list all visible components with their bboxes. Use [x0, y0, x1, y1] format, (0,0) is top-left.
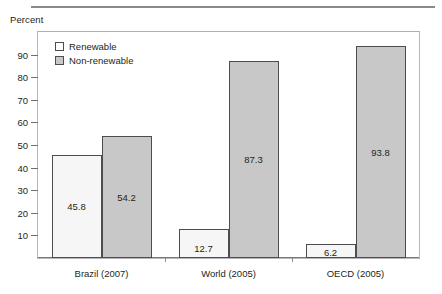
y-axis-tick-label: 80	[17, 72, 28, 83]
y-axis-tick-label: 20	[17, 207, 28, 218]
bar-value-label: 6.2	[307, 247, 355, 258]
bar-nonrenewable: 93.8	[356, 46, 406, 258]
legend-label-nonrenewable: Non-renewable	[69, 55, 133, 66]
bar-value-label: 54.2	[103, 192, 151, 203]
x-axis-group-label: OECD (2005)	[327, 268, 385, 279]
bar-nonrenewable: 87.3	[229, 61, 279, 258]
y-axis-tick-mark	[31, 168, 38, 169]
y-axis-tick-mark	[31, 190, 38, 191]
y-axis-tick-label: 90	[17, 49, 28, 60]
bar-renewable: 12.7	[179, 229, 229, 258]
y-axis-tick-mark	[31, 235, 38, 236]
y-axis-tick-label: 70	[17, 94, 28, 105]
bar-value-label: 87.3	[230, 154, 278, 165]
y-axis-title: Percent	[10, 14, 43, 25]
y-axis-tick-mark	[31, 122, 38, 123]
top-rule	[31, 6, 435, 8]
x-axis-group-separator-tick	[165, 258, 166, 262]
legend-swatch-nonrenewable-icon	[55, 56, 64, 65]
y-axis-tick-label: 40	[17, 162, 28, 173]
legend-item-nonrenewable: Non-renewable	[55, 54, 133, 67]
y-axis-tick-label: 30	[17, 185, 28, 196]
x-axis-group-label: World (2005)	[201, 268, 256, 279]
y-axis-tick-mark	[31, 55, 38, 56]
y-axis-tick-mark	[31, 77, 38, 78]
x-axis-group-label: Brazil (2007)	[75, 268, 129, 279]
bar-value-label: 93.8	[357, 147, 405, 158]
legend-swatch-renewable-icon	[55, 42, 64, 51]
y-axis-tick-mark	[31, 213, 38, 214]
chart-figure: Percent 10203040506070809045.854.2Brazil…	[0, 0, 442, 294]
bar-renewable: 45.8	[52, 155, 102, 259]
y-axis-tick-mark	[31, 100, 38, 101]
y-axis-tick-label: 10	[17, 230, 28, 241]
bar-value-label: 12.7	[180, 243, 228, 254]
bar-renewable: 6.2	[306, 244, 356, 258]
y-axis-tick-mark	[31, 145, 38, 146]
legend-item-renewable: Renewable	[55, 40, 133, 53]
y-axis-tick-label: 60	[17, 117, 28, 128]
y-axis-tick-label: 50	[17, 140, 28, 151]
plot-area: 10203040506070809045.854.2Brazil (2007)1…	[37, 31, 420, 259]
bar-nonrenewable: 54.2	[102, 136, 152, 258]
legend-label-renewable: Renewable	[69, 41, 117, 52]
chart-legend: Renewable Non-renewable	[55, 40, 133, 68]
x-axis-group-separator-tick	[292, 258, 293, 262]
bar-value-label: 45.8	[53, 201, 101, 212]
